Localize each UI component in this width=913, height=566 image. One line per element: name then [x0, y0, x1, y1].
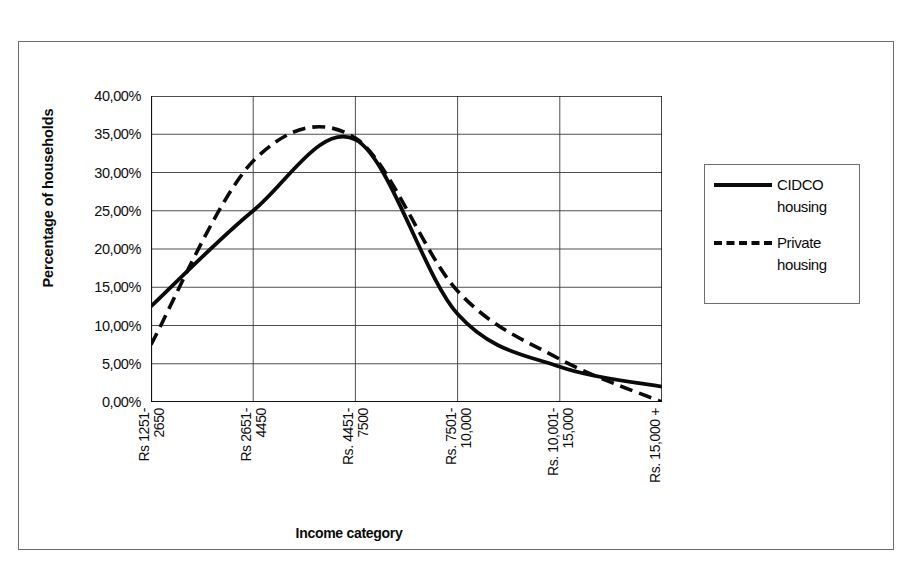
x-axis-tick-label: Rs 1251- 2650 [137, 408, 167, 528]
y-axis-tick-label: 0,00% [65, 394, 141, 410]
y-axis-tick-label: 40,00% [65, 88, 141, 104]
chart-frame: Percentage of households Income category… [18, 41, 894, 550]
x-axis-tick-label: Rs 2651- 4450 [239, 408, 269, 528]
y-axis-tick-label: 25,00% [65, 203, 141, 219]
legend-line-sample-solid [714, 183, 772, 187]
y-axis-tick-label: 30,00% [65, 165, 141, 181]
legend-label-private-housing: Private housing [777, 232, 859, 276]
x-axis-tick-label: Rs. 7501- 10,000 [444, 408, 474, 528]
x-axis-tick-label: Rs. 4451- 7500 [341, 408, 371, 528]
y-axis-tick-label: 5,00% [65, 356, 141, 372]
x-axis-tick-label: Rs. 10,001- 15,000 [546, 408, 576, 528]
plot-svg [151, 96, 662, 402]
x-axis-tick-label: Rs. 15,000 + [648, 408, 663, 528]
y-axis-tick-label: 10,00% [65, 318, 141, 334]
legend-item-cidco-housing: CIDCO housing [705, 176, 859, 232]
legend-line-sample-dashed [714, 241, 772, 245]
chart-legend: CIDCO housing Private housing [704, 164, 860, 304]
legend-item-private-housing: Private housing [705, 234, 859, 290]
y-axis-tick-label: 35,00% [65, 126, 141, 142]
y-axis-title: Percentage of households [40, 83, 56, 313]
legend-label-cidco-housing: CIDCO housing [777, 174, 859, 218]
plot-area [151, 96, 662, 402]
y-axis-tick-label: 20,00% [65, 241, 141, 257]
y-axis-tick-label: 15,00% [65, 279, 141, 295]
